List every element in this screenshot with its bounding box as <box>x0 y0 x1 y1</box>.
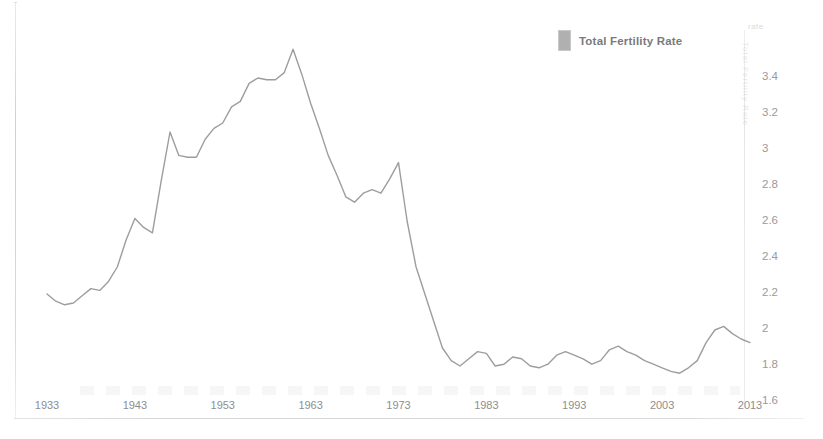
y-axis-tick-label: 3.4 <box>762 70 778 82</box>
y-axis-tick-label: 2.4 <box>762 250 778 262</box>
y-axis-tick-label: 2.8 <box>762 178 778 190</box>
series-line-chart <box>0 0 823 439</box>
fertility-rate-chart: rate Total Fertility Rate Total Fertilit… <box>0 0 823 439</box>
total-fertility-rate-line <box>47 49 750 373</box>
x-axis-tick-label: 1973 <box>386 399 410 411</box>
y-axis-tick-label: 1.8 <box>762 358 778 370</box>
y-axis-tick-label: 2 <box>762 322 768 334</box>
x-axis-tick-label: 1993 <box>562 399 586 411</box>
y-axis-tick-label: 2.2 <box>762 286 778 298</box>
x-axis-tick-label: 2003 <box>650 399 674 411</box>
x-axis-tick-label: 1933 <box>35 399 59 411</box>
x-axis-tick-label: 1943 <box>123 399 147 411</box>
y-axis-tick-label: 3 <box>762 142 768 154</box>
y-axis-tick-label: 1.6 <box>762 394 778 406</box>
y-axis-tick-label: 2.6 <box>762 214 778 226</box>
plot-area <box>0 0 823 439</box>
x-axis-tick-label: 2013 <box>738 399 762 411</box>
x-axis-tick-label: 1983 <box>474 399 498 411</box>
x-axis-tick-label: 1963 <box>298 399 322 411</box>
y-axis-tick-label: 3.2 <box>762 106 778 118</box>
x-axis-tick-label: 1953 <box>211 399 235 411</box>
